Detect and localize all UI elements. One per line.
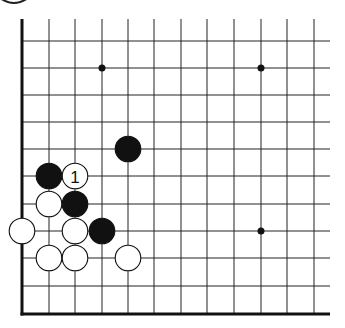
black-stone bbox=[36, 163, 62, 189]
white-stone bbox=[36, 245, 62, 271]
black-stone bbox=[62, 191, 88, 217]
go-board-diagram: 1 bbox=[0, 0, 345, 328]
star-point-icon bbox=[258, 65, 265, 72]
white-stone bbox=[62, 218, 88, 244]
white-stone bbox=[9, 218, 35, 244]
move-number-label: 1 bbox=[70, 168, 79, 187]
white-stone bbox=[62, 245, 88, 271]
star-point-icon bbox=[258, 228, 265, 235]
black-stone bbox=[89, 218, 115, 244]
white-stone bbox=[115, 245, 141, 271]
star-point-icon bbox=[99, 65, 106, 72]
black-stone bbox=[115, 136, 141, 162]
partial-circle-arc bbox=[0, 0, 28, 3]
white-stone: 1 bbox=[62, 163, 88, 189]
white-stone bbox=[36, 191, 62, 217]
